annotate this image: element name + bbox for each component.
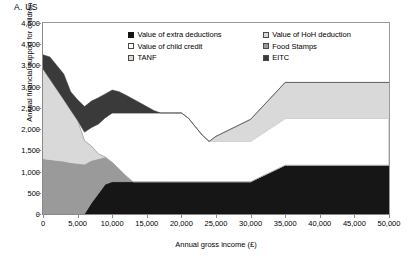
x-tick-label: 45,000 <box>343 219 366 228</box>
x-tick-label: 0 <box>41 219 45 228</box>
legend-item[interactable]: Value of HoH deduction <box>263 30 384 39</box>
y-tick-mark <box>37 108 41 109</box>
legend-swatch-icon <box>263 55 269 61</box>
legend: Value of extra deductionsValue of HoH de… <box>128 30 384 62</box>
x-tick-mark <box>320 215 321 218</box>
x-tick-label: 30,000 <box>239 219 262 228</box>
legend-swatch-icon <box>128 43 134 49</box>
y-tick-mark <box>37 129 41 130</box>
x-tick-label: 25,000 <box>205 219 228 228</box>
x-tick-mark <box>181 215 182 218</box>
y-tick-mark <box>37 193 41 194</box>
x-tick-mark <box>147 215 148 218</box>
x-tick-mark <box>354 215 355 218</box>
x-tick-mark <box>216 215 217 218</box>
chart-figure: A. US Annual financial support for child… <box>0 0 410 256</box>
x-tick-mark <box>43 215 44 218</box>
legend-item[interactable]: EITC <box>263 53 384 62</box>
y-tick-mark <box>37 172 41 173</box>
legend-label: EITC <box>272 53 289 62</box>
x-tick-label: 35,000 <box>274 219 297 228</box>
y-tick-mark <box>37 65 41 66</box>
legend-label: Value of HoH deduction <box>272 30 351 39</box>
x-tick-mark <box>78 215 79 218</box>
legend-swatch-icon <box>128 32 134 38</box>
legend-label: Value of extra deductions <box>138 30 222 39</box>
y-tick-mark <box>37 214 41 215</box>
y-tick-mark <box>37 44 41 45</box>
legend-label: Value of child credit <box>138 42 203 51</box>
x-tick-label: 40,000 <box>308 219 331 228</box>
x-axis: 05,00010,00015,00020,00025,00030,00035,0… <box>42 215 391 235</box>
x-tick-label: 10,000 <box>101 219 124 228</box>
y-tick-mark <box>37 87 41 88</box>
legend-label: TANF <box>138 53 157 62</box>
legend-swatch-icon <box>263 32 269 38</box>
x-tick-label: 20,000 <box>170 219 193 228</box>
x-tick-mark <box>251 215 252 218</box>
legend-swatch-icon <box>128 55 134 61</box>
x-tick-label: 15,000 <box>135 219 158 228</box>
x-tick-mark <box>389 215 390 218</box>
legend-swatch-icon <box>263 43 269 49</box>
x-tick-mark <box>112 215 113 218</box>
x-axis-label: Annual gross income (£) <box>42 240 390 249</box>
legend-item[interactable]: Food Stamps <box>263 42 384 51</box>
legend-item[interactable]: Value of extra deductions <box>128 30 255 39</box>
y-tick-mark <box>37 150 41 151</box>
legend-label: Food Stamps <box>272 42 317 51</box>
x-tick-mark <box>285 215 286 218</box>
y-tick-mark <box>37 23 41 24</box>
y-axis: 05001,0001,5002,0002,5003,0003,5004,0004… <box>0 22 40 215</box>
legend-item[interactable]: Value of child credit <box>128 42 255 51</box>
x-tick-label: 50,000 <box>378 219 401 228</box>
legend-item[interactable]: TANF <box>128 53 255 62</box>
x-tick-label: 5,000 <box>68 219 87 228</box>
